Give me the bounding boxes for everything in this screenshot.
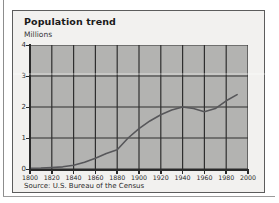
y-tick-label: 0 (14, 165, 26, 173)
y-tick-label: 1 (14, 134, 26, 142)
x-tick-label: 1980 (215, 174, 237, 181)
chart-title: Population trend (24, 16, 116, 27)
x-tick-mark (204, 170, 206, 174)
x-tick-label: 1860 (84, 174, 106, 181)
plot-area (30, 45, 248, 169)
y-axis-unit-label: Millions (24, 30, 52, 39)
x-tick-mark (116, 170, 118, 174)
x-tick-mark (95, 170, 97, 174)
x-tick-mark (51, 170, 53, 174)
x-tick-label: 1900 (128, 174, 150, 181)
x-tick-label: 1920 (150, 174, 172, 181)
x-tick-mark (160, 170, 162, 174)
x-tick-mark (182, 170, 184, 174)
y-tick-label: 2 (14, 103, 26, 111)
x-tick-label: 1880 (106, 174, 128, 181)
x-tick-mark (225, 170, 227, 174)
page-edge-rule (3, 0, 4, 197)
y-tick-mark (26, 138, 30, 140)
x-tick-mark (247, 170, 249, 174)
page-bottom-rule (3, 196, 275, 197)
x-tick-label: 1800 (19, 174, 41, 181)
y-tick-label: 4 (14, 41, 26, 49)
x-tick-label: 2000 (237, 174, 259, 181)
y-tick-mark (26, 107, 30, 109)
y-tick-mark (26, 45, 30, 47)
x-tick-mark (29, 170, 31, 174)
x-tick-mark (73, 170, 75, 174)
x-tick-label: 1840 (63, 174, 85, 181)
chart-figure: Population trend Millions 01234 18001820… (12, 10, 265, 193)
x-tick-label: 1940 (172, 174, 194, 181)
y-tick-mark (26, 76, 30, 78)
population-line-series (30, 95, 237, 169)
x-tick-label: 1820 (41, 174, 63, 181)
y-tick-label: 3 (14, 72, 26, 80)
x-tick-mark (138, 170, 140, 174)
plot-canvas (30, 45, 248, 169)
x-tick-label: 1960 (193, 174, 215, 181)
source-note: Source: U.S. Bureau of the Census (24, 182, 144, 190)
